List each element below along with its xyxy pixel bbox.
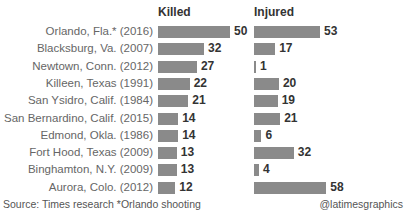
killed-bar — [158, 95, 188, 107]
injured-value: 4 — [263, 162, 270, 176]
killed-value: 13 — [181, 145, 194, 159]
killed-header: Killed — [158, 5, 191, 19]
killed-value: 27 — [201, 59, 214, 73]
row-label: San Ysidro, Calif. (1984) — [28, 94, 153, 106]
injured-value: 58 — [330, 180, 343, 194]
injured-value: 32 — [298, 145, 311, 159]
killed-value: 13 — [181, 162, 194, 176]
injured-value: 1 — [260, 59, 267, 73]
injured-value: 17 — [279, 41, 292, 55]
injured-bar — [254, 182, 326, 194]
credit: @latimesgraphics — [319, 198, 403, 210]
injured-value: 21 — [284, 111, 297, 125]
injured-bar — [254, 43, 275, 55]
killed-bar — [158, 130, 178, 142]
row-label: Fort Hood, Texas (2009) — [29, 146, 153, 158]
killed-value: 12 — [179, 180, 192, 194]
killed-bar — [158, 43, 204, 55]
injured-bar — [254, 78, 279, 90]
injured-header: Injured — [254, 5, 294, 19]
row-label: Aurora, Colo. (2012) — [49, 181, 153, 193]
killed-bar — [158, 182, 175, 194]
injured-value: 53 — [324, 24, 337, 38]
injured-value: 20 — [283, 76, 296, 90]
row-label: Newtown, Conn. (2012) — [32, 60, 153, 72]
injured-bar — [254, 61, 256, 73]
killed-bar — [158, 147, 177, 159]
table-row: Aurora, Colo. (2012) 12 58 — [0, 178, 409, 198]
injured-bar — [254, 147, 294, 159]
killed-value: 21 — [192, 93, 205, 107]
killed-bar — [158, 113, 178, 125]
injured-bar — [254, 95, 278, 107]
injured-bar — [254, 26, 320, 38]
source-note: Source: Times research *Orlando shooting — [3, 198, 201, 210]
injured-value: 19 — [282, 93, 295, 107]
killed-bar — [158, 78, 190, 90]
killed-value: 32 — [208, 41, 221, 55]
injured-value: 6 — [265, 128, 272, 142]
injured-bar — [254, 164, 259, 176]
injured-bar — [254, 130, 261, 142]
killed-bar — [158, 26, 230, 38]
killed-value: 50 — [234, 24, 247, 38]
killed-bar — [158, 61, 197, 73]
killed-value: 22 — [194, 76, 207, 90]
killed-value: 14 — [182, 111, 195, 125]
row-label: Edmond, Okla. (1986) — [40, 129, 153, 141]
killed-value: 14 — [182, 128, 195, 142]
injured-bar — [254, 113, 280, 125]
killed-bar — [158, 164, 177, 176]
row-label: Killeen, Texas (1991) — [46, 77, 153, 89]
row-label: Binghamton, N.Y. (2009) — [28, 163, 153, 175]
row-label: San Bernardino, Calif. (2015) — [4, 112, 153, 124]
row-label: Orlando, Fla.* (2016) — [46, 25, 153, 37]
row-label: Blacksburg, Va. (2007) — [37, 42, 153, 54]
